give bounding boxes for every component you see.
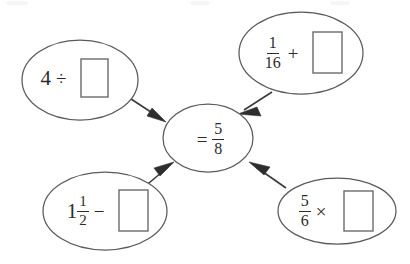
equals-sign: = [197, 130, 208, 149]
fraction-denominator: 8 [212, 140, 224, 158]
operator-minus: − [94, 202, 105, 221]
mixed-number-one-and-half: 1 1 2 [67, 194, 89, 228]
expression-top-right: 1 16 + [252, 33, 314, 73]
answer-box-bottom-right[interactable] [344, 191, 373, 231]
fraction-five-eighths: 5 8 [212, 121, 224, 157]
answer-box-bottom-left[interactable] [119, 190, 148, 231]
operator-multiply: × [316, 202, 327, 221]
fraction-one-sixteenth: 1 16 [263, 35, 283, 71]
operand-whole-number: 4 [41, 68, 52, 89]
fraction-denominator: 6 [299, 212, 311, 230]
fraction-denominator: 2 [77, 212, 89, 229]
expression-bottom-left: 1 1 2 − [55, 191, 121, 231]
arrow-bottom-right-to-center [249, 162, 286, 188]
fraction-numerator: 5 [299, 193, 311, 212]
arrow-top-right-to-center [238, 92, 272, 116]
diagram-page: 4 ÷ 1 16 + = 5 8 1 1 2 − 5 6 [0, 0, 410, 264]
expression-bottom-right: 5 6 × [285, 192, 345, 230]
fraction-numerator: 5 [212, 121, 224, 140]
expression-center-result: = 5 8 [172, 118, 244, 160]
arrow-top-left-to-center [128, 97, 166, 122]
mixed-whole-part: 1 [67, 201, 78, 222]
fraction-five-sixths: 5 6 [299, 193, 311, 229]
operator-plus: + [288, 44, 299, 63]
operator-divide: ÷ [56, 69, 66, 88]
expression-top-left: 4 ÷ [30, 64, 82, 92]
answer-box-top-right[interactable] [313, 32, 342, 73]
answer-box-top-left[interactable] [81, 59, 108, 97]
mixed-fraction-part: 1 2 [77, 194, 89, 228]
fraction-numerator: 1 [77, 194, 89, 212]
fraction-denominator: 16 [263, 54, 283, 72]
fraction-numerator: 1 [267, 35, 279, 54]
